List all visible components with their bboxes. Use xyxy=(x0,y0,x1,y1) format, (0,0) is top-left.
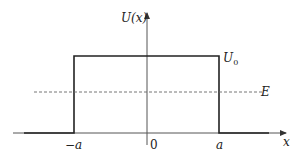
right-edge-label: a xyxy=(216,139,223,151)
x-axis-label: x xyxy=(283,136,290,148)
left-edge-label: −a xyxy=(65,139,82,151)
u-subscript: 0 xyxy=(233,58,238,67)
energy-label: E xyxy=(261,86,270,98)
origin-label: 0 xyxy=(150,139,158,151)
y-axis-label: U(x) xyxy=(121,12,147,24)
barrier-height-label: U0 xyxy=(223,52,238,67)
u-symbol: U xyxy=(223,51,233,65)
diagram-canvas xyxy=(0,0,299,159)
potential-barrier-diagram: U(x) U0 E −a 0 a x xyxy=(0,0,299,159)
